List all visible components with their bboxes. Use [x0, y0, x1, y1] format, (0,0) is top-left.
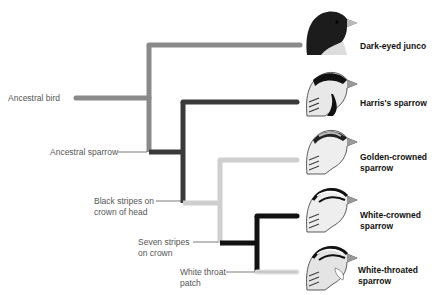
node-label-ancestral-sparrow: Ancestral sparrow — [50, 147, 118, 158]
node-label-black-stripes: Black stripes on crown of head — [94, 196, 154, 217]
species-label-white-throated: White-throated sparrow — [358, 265, 418, 286]
species-label-harris: Harris's sparrow — [360, 98, 427, 109]
golden-crowned-sparrow-head-icon — [303, 124, 359, 176]
node-label-ancestral-bird: Ancestral bird — [8, 93, 60, 104]
white-crowned-sparrow-head-icon — [303, 182, 359, 234]
white-throated-sparrow-head-icon — [303, 240, 359, 292]
node-label-white-throat: White throat patch — [180, 267, 226, 288]
harris-sparrow-head-icon — [303, 66, 359, 118]
species-label-white-crowned: White-crowned sparrow — [360, 210, 421, 231]
junco-head-icon — [303, 5, 359, 57]
species-label-junco: Dark-eyed junco — [360, 41, 426, 52]
node-label-seven-stripes: Seven stripes on crown — [138, 237, 190, 258]
species-label-golden-crowned: Golden-crowned sparrow — [360, 152, 427, 173]
